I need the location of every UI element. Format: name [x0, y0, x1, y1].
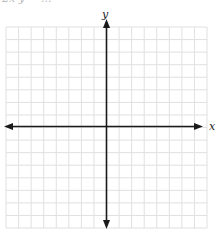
coordinate-plane [0, 0, 217, 233]
y-axis-label: y [102, 8, 108, 21]
x-axis-right-arrow-icon [194, 123, 203, 130]
x-axis-left-arrow-icon [4, 123, 13, 130]
x-axis-label: x [209, 120, 215, 133]
